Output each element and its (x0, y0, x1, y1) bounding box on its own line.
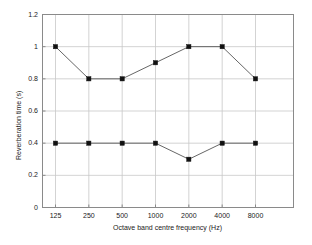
data-point-marker (153, 61, 157, 65)
data-point-marker (253, 77, 257, 81)
y-tick-label: 0.2 (8, 171, 38, 179)
x-tick-label: 8000 (236, 212, 276, 220)
reverberation-time-chart: 00.20.40.60.811.2 1252505001000200040008… (0, 0, 312, 245)
data-point-marker (220, 45, 224, 49)
data-point-marker (120, 77, 124, 81)
y-tick-label: 1 (8, 43, 38, 51)
y-axis-title: Reverberation time (s) (15, 91, 22, 160)
y-tick-label: 0.4 (8, 139, 38, 147)
data-point-marker (187, 45, 191, 49)
data-point-marker (120, 141, 124, 145)
data-point-marker (87, 77, 91, 81)
data-point-marker (53, 45, 57, 49)
y-tick-label: 0.6 (8, 107, 38, 115)
y-tick-label: 0.8 (8, 75, 38, 83)
data-point-marker (53, 141, 57, 145)
data-point-marker (153, 141, 157, 145)
plot-area (0, 0, 312, 245)
data-point-marker (87, 141, 91, 145)
data-point-marker (220, 141, 224, 145)
data-point-marker (253, 141, 257, 145)
y-tick-label: 0 (8, 204, 38, 212)
data-point-marker (187, 157, 191, 161)
y-tick-label: 1.2 (8, 11, 38, 19)
x-axis-title: Octave band centre frequency (Hz) (42, 224, 293, 231)
